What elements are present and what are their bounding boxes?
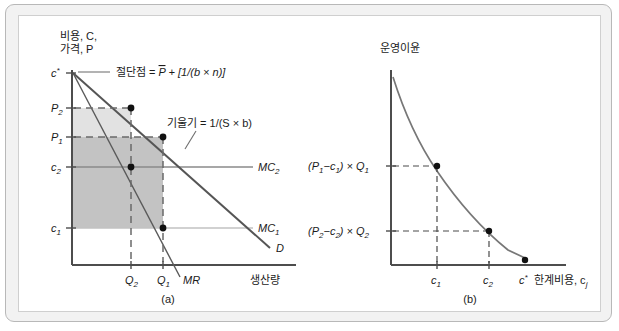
panel-b-x-axis-title: 한계비용, cj (534, 274, 588, 289)
point-demand-q1 (160, 134, 167, 141)
label-b-c1: c1 (431, 274, 441, 289)
label-q2: Q2 (125, 274, 139, 289)
panel-a-x-axis-title: 생산량 (250, 274, 280, 286)
label-c-star: c* (51, 66, 61, 79)
label-b-c-star: c* (519, 273, 529, 286)
panel-b: 운영이윤 (P1−c1) × Q1 (P2−c2) × Q2 c1 c2 c* … (308, 42, 588, 305)
point-demand-q2 (128, 105, 135, 112)
point-mr-mc1 (160, 225, 167, 232)
label-profit1: (P1−c1) × Q1 (308, 160, 369, 175)
label-c2: c2 (51, 161, 62, 176)
label-q1: Q1 (157, 274, 170, 289)
point-profit-c2 (486, 228, 492, 234)
label-demand-curve: D (276, 242, 284, 254)
shaded-region-low-cost (72, 137, 163, 228)
intercept-annotation: 절단점 = P + [1/(b × n)] (116, 66, 226, 78)
point-profit-c1 (434, 163, 440, 169)
label-c1: c1 (51, 222, 61, 237)
label-b-c2: c2 (483, 274, 494, 289)
label-p2: P2 (51, 102, 63, 117)
label-profit2: (P2−c2) × Q2 (308, 225, 370, 240)
panel-a-y-axis-title-line1: 비용, C, (60, 30, 97, 42)
point-mr-mc2 (128, 164, 135, 171)
label-marginal-revenue: MR (183, 274, 200, 286)
slope-leader-line (185, 131, 196, 149)
panel-a-caption: (a) (161, 293, 174, 305)
point-zero-profit-c-star (522, 257, 528, 263)
panel-b-caption: (b) (463, 293, 476, 305)
panel-b-y-axis-title: 운영이윤 (380, 42, 420, 54)
figure-canvas: 비용, C, 가격, P c* P2 P1 c2 c1 Q2 Q1 생산량 D … (0, 0, 619, 331)
label-mc2: MC2 (258, 161, 280, 176)
panel-a: 비용, C, 가격, P c* P2 P1 c2 c1 Q2 Q1 생산량 D … (51, 30, 296, 305)
label-p1: P1 (51, 131, 63, 146)
label-mc1: MC1 (258, 222, 280, 237)
panel-a-y-axis-title-line2: 가격, P (60, 43, 93, 55)
slope-annotation: 기울기 = 1/(S × b) (167, 117, 252, 129)
